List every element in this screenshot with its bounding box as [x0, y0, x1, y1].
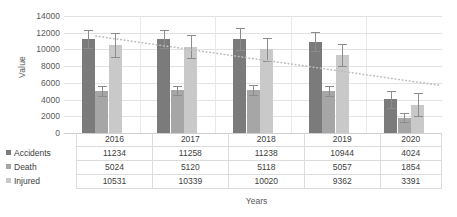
- y-tick-label: 12000: [14, 28, 60, 38]
- legend-item-death[interactable]: Death: [4, 161, 77, 175]
- injured-swatch-icon: [6, 178, 11, 183]
- y-tick-label: 6000: [14, 78, 60, 88]
- table-row: Injured10531103391002093623391: [4, 175, 442, 189]
- y-tick-label: 10000: [14, 44, 60, 54]
- table-cell: 11234: [77, 147, 153, 161]
- table-cell: 5118: [228, 161, 304, 175]
- x-axis-title-text: Years: [246, 196, 267, 206]
- table-cell: 4024: [380, 147, 441, 161]
- table-cell: 3391: [380, 175, 441, 189]
- table-cell: 10531: [77, 175, 153, 189]
- table-row: Accidents112341125811238109444024: [4, 147, 442, 161]
- table-column-header: 2016: [77, 133, 153, 147]
- y-tick-label: 4000: [14, 95, 60, 105]
- table-column-header: 2020: [380, 133, 441, 147]
- legend-item-label: Death: [14, 162, 37, 172]
- table-column-header: 2018: [228, 133, 304, 147]
- death-swatch-icon: [6, 164, 11, 169]
- y-tick-label: 8000: [14, 61, 60, 71]
- table-cell: 9362: [304, 175, 380, 189]
- y-tick-label: 2000: [14, 111, 60, 121]
- legend-item-label: Accidents: [14, 148, 51, 158]
- table-corner-cell: [4, 133, 77, 147]
- plot-area: [64, 16, 442, 133]
- trendline: [64, 16, 442, 133]
- y-tick-label: 14000: [14, 11, 60, 21]
- table-cell: 5120: [152, 161, 228, 175]
- table-header-row: 20162017201820192020: [4, 133, 442, 147]
- x-axis-title: Years: [0, 196, 457, 206]
- table-cell: 10944: [304, 147, 380, 161]
- legend-item-injured[interactable]: Injured: [4, 175, 77, 189]
- table-cell: 10339: [152, 175, 228, 189]
- legend-item-label: Injured: [14, 176, 40, 186]
- table-cell: 1854: [380, 161, 441, 175]
- table-column-header: 2017: [152, 133, 228, 147]
- table-cell: 11258: [152, 147, 228, 161]
- table-cell: 5057: [304, 161, 380, 175]
- table-cell: 5024: [77, 161, 153, 175]
- table-column-header: 2019: [304, 133, 380, 147]
- table-row: Death50245120511850571854: [4, 161, 442, 175]
- data-table: 20162017201820192020Accidents11234112581…: [4, 133, 442, 189]
- table-cell: 10020: [228, 175, 304, 189]
- accidents-swatch-icon: [6, 150, 11, 155]
- table-cell: 11238: [228, 147, 304, 161]
- legend-item-accidents[interactable]: Accidents: [4, 147, 77, 161]
- bar-chart-with-data-table: Value 14000120001000080006000400020000 2…: [0, 0, 457, 217]
